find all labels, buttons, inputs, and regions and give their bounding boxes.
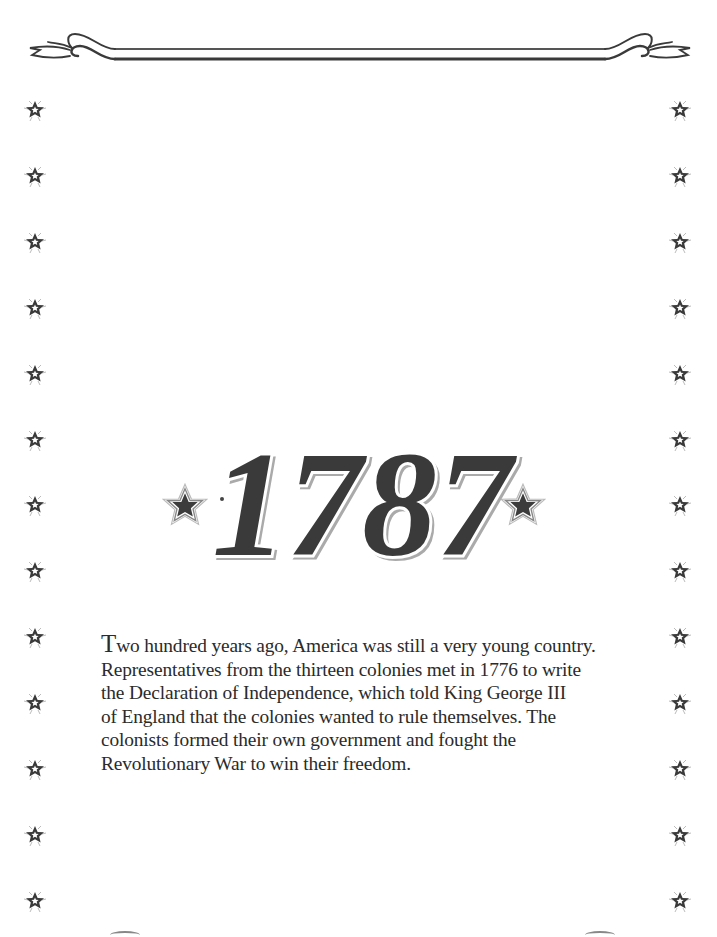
border-star-icon — [668, 493, 692, 517]
border-star-icon — [23, 164, 47, 188]
paragraph-line: Two hundred years ago, America was still… — [101, 632, 631, 658]
border-star-icon — [668, 230, 692, 254]
border-star-icon — [668, 823, 692, 847]
right-star-column — [660, 0, 700, 937]
title-numerals: 1787 — [212, 421, 517, 585]
title-1787: 1787 1787 1787 — [150, 415, 570, 585]
line-text: wo hundred years ago, America was still … — [116, 635, 596, 656]
drop-cap: T — [101, 630, 116, 657]
border-star-icon — [23, 428, 47, 452]
border-star-icon — [23, 691, 47, 715]
paragraph-line: Revolutionary War to win their freedom. — [101, 752, 631, 776]
body-paragraph: Two hundred years ago, America was still… — [101, 632, 631, 776]
border-star-icon — [23, 493, 47, 517]
paragraph-line: the Declaration of Independence, which t… — [101, 681, 631, 705]
border-star-icon — [23, 889, 47, 913]
border-star-icon — [668, 757, 692, 781]
border-star-icon — [668, 625, 692, 649]
left-star-column — [15, 0, 55, 937]
border-star-icon — [23, 823, 47, 847]
border-star-icon — [668, 164, 692, 188]
bottom-ribbon-hint-left — [110, 931, 140, 937]
title-star-left-icon — [163, 484, 207, 524]
border-star-icon — [23, 559, 47, 583]
bottom-ribbon-hint-right — [585, 931, 615, 937]
border-star-icon — [668, 691, 692, 715]
border-star-icon — [23, 296, 47, 320]
border-star-icon — [668, 362, 692, 386]
paragraph-line: of England that the colonies wanted to r… — [101, 705, 631, 729]
paragraph-line: colonists formed their own government an… — [101, 728, 631, 752]
border-star-icon — [23, 230, 47, 254]
border-star-icon — [23, 98, 47, 122]
border-star-icon — [668, 428, 692, 452]
border-star-icon — [23, 757, 47, 781]
border-star-icon — [23, 362, 47, 386]
ribbon-border — [20, 20, 700, 80]
border-star-icon — [23, 625, 47, 649]
border-star-icon — [668, 98, 692, 122]
border-star-icon — [668, 889, 692, 913]
border-star-icon — [668, 296, 692, 320]
paragraph-line: Representatives from the thirteen coloni… — [101, 658, 631, 682]
border-star-icon — [668, 559, 692, 583]
